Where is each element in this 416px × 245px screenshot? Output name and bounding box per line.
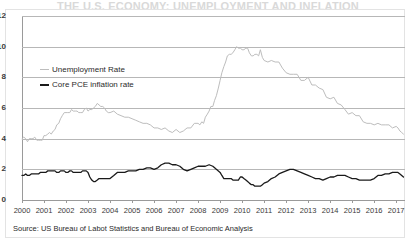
x-tick-2005 <box>132 200 133 203</box>
x-tick-2004 <box>110 200 111 203</box>
legend-swatch-pce-icon <box>40 84 49 86</box>
x-tick-2002 <box>66 200 67 203</box>
x-tick-2014 <box>330 200 331 203</box>
x-tick-2015 <box>352 200 353 203</box>
x-tick-2011 <box>264 200 265 203</box>
x-tick-2006 <box>154 200 155 203</box>
y-tick-label-6: 6 <box>0 104 6 112</box>
y-tick-label-4: 4 <box>0 135 6 143</box>
series-line-core-pce-inflation-rate <box>22 163 403 186</box>
y-tick-label-2: 2 <box>0 165 6 173</box>
chart-title: THE U.S. ECONOMY: UNEMPLOYMENT AND INFLA… <box>0 0 416 9</box>
x-tick-2009 <box>220 200 221 203</box>
x-tick-2000 <box>22 200 23 203</box>
series-lines <box>22 16 405 200</box>
x-tick-2001 <box>44 200 45 203</box>
legend-item-core-pce-inflation-rate: Core PCE inflation rate <box>40 77 192 92</box>
legend-swatch-unemployment-icon <box>40 69 49 70</box>
x-axis-line <box>22 200 405 201</box>
x-tick-2013 <box>308 200 309 203</box>
chart-figure: THE U.S. ECONOMY: UNEMPLOYMENT AND INFLA… <box>0 0 416 245</box>
x-tick-2012 <box>286 200 287 203</box>
x-tick-2007 <box>176 200 177 203</box>
plot-area: 024681012 200020012002200320042005200620… <box>22 16 405 200</box>
y-tick-label-12: 12 <box>0 12 6 20</box>
legend-item-unemployment-rate: Unemployment Rate <box>40 62 192 77</box>
x-tick-2010 <box>242 200 243 203</box>
y-tick-label-0: 0 <box>0 196 6 204</box>
legend-label-pce: Core PCE inflation rate <box>52 80 134 90</box>
y-tick-label-10: 10 <box>0 43 6 51</box>
x-tick-2008 <box>198 200 199 203</box>
x-tick-2003 <box>88 200 89 203</box>
chart-legend: Unemployment Rate Core PCE inflation rat… <box>40 62 192 92</box>
x-tick-label-2017: 2017 <box>381 206 411 215</box>
x-tick-2017 <box>396 200 397 203</box>
x-tick-2016 <box>374 200 375 203</box>
series-line-unemployment-rate <box>22 47 403 142</box>
y-tick-label-8: 8 <box>0 73 6 81</box>
legend-label-unemployment: Unemployment Rate <box>52 65 125 75</box>
source-note: Source: US Bureau of Labot Statistics an… <box>13 224 253 234</box>
